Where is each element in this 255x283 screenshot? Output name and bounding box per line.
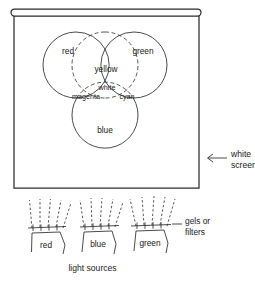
figure-canvas: red green blue yellow magenta cyan white <box>0 0 255 283</box>
filters-label-line1: gels or <box>185 216 210 227</box>
screen-label-line1: white <box>231 149 255 160</box>
filters-callout-label: gels or filters <box>185 216 210 237</box>
lamp-green-rays <box>130 196 175 226</box>
lamp-red-filter <box>28 227 66 229</box>
lamp-blue-rays <box>80 198 123 227</box>
venn-label-white: white <box>98 83 116 92</box>
venn-label-magenta: magenta <box>72 92 100 101</box>
light-sources-caption: light sources <box>0 263 185 273</box>
white-screen <box>14 16 199 188</box>
venn-circle-blue <box>72 99 138 149</box>
venn-label-red: red <box>62 46 74 56</box>
venn-label-yellow: yellow <box>94 64 118 74</box>
screen-roller <box>11 9 201 16</box>
lamp-blue-label: blue <box>90 239 106 249</box>
lamp-green-label: green <box>139 238 161 248</box>
lamp-blue-filter <box>80 226 119 228</box>
lamp-red-label: red <box>40 240 52 250</box>
screen-label-line2: screen <box>231 160 255 171</box>
screen-callout-label: white screen <box>231 149 255 170</box>
filters-label-line2: filters <box>185 227 210 238</box>
venn-label-blue: blue <box>97 125 113 135</box>
venn-label-cyan: cyan <box>119 92 134 101</box>
venn-label-green: green <box>132 46 154 56</box>
screen-callout-arrow <box>208 154 228 162</box>
lamp-red-rays <box>30 199 72 228</box>
